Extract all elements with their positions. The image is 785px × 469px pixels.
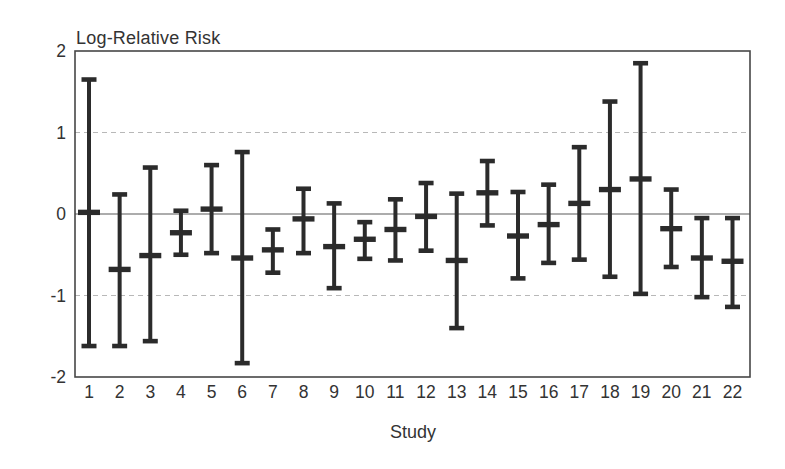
error-bar-study-6: [231, 152, 253, 363]
x-tick-label: 18: [600, 382, 619, 402]
error-bar-study-19: [630, 63, 652, 294]
error-bar-study-9: [323, 203, 345, 288]
x-tick-label: 13: [447, 382, 466, 402]
x-tick-label: 10: [355, 382, 375, 402]
error-bar-study-7: [262, 229, 284, 272]
error-bar-study-10: [354, 222, 376, 259]
x-tick-label: 20: [661, 382, 681, 402]
x-tick-label: 5: [207, 382, 217, 402]
x-tick-label: 17: [570, 382, 589, 402]
error-bar-study-22: [722, 218, 744, 307]
x-tick-label: 22: [723, 382, 742, 402]
error-bar-study-12: [415, 183, 437, 251]
y-tick-label: -1: [50, 286, 66, 306]
x-tick-label: 7: [268, 382, 278, 402]
error-bar-study-4: [170, 211, 192, 255]
x-tick-label: 8: [299, 382, 309, 402]
x-tick-label: 9: [329, 382, 339, 402]
error-bar-study-17: [568, 147, 590, 259]
error-bar-study-14: [476, 161, 498, 225]
errorbar-chart: Log-Relative Risk 210-1-2123456789101112…: [0, 0, 785, 469]
y-tick-label: 2: [56, 41, 66, 61]
x-tick-label: 12: [416, 382, 435, 402]
x-tick-label: 14: [478, 382, 498, 402]
y-tick-label: -2: [50, 367, 66, 387]
x-tick-label: 16: [539, 382, 558, 402]
error-bar-study-21: [691, 218, 713, 297]
y-tick-label: 1: [56, 123, 66, 143]
x-axis-label: Study: [390, 422, 436, 443]
error-bar-study-1: [78, 80, 100, 347]
x-tick-label: 6: [237, 382, 247, 402]
error-bar-study-5: [201, 165, 223, 253]
error-bar-study-11: [384, 199, 406, 260]
error-bar-study-20: [660, 190, 682, 267]
error-bar-study-16: [538, 185, 560, 263]
chart-title: Log-Relative Risk: [76, 28, 220, 49]
error-bar-study-3: [139, 168, 161, 342]
error-bar-study-2: [109, 194, 131, 346]
plot-area-svg: 210-1-2123456789101112131415161718192021…: [0, 0, 785, 469]
x-tick-label: 11: [386, 382, 404, 402]
x-tick-label: 4: [176, 382, 186, 402]
x-tick-label: 21: [692, 382, 711, 402]
x-tick-label: 15: [508, 382, 527, 402]
x-tick-label: 2: [115, 382, 125, 402]
x-tick-label: 3: [145, 382, 155, 402]
error-bar-study-8: [293, 189, 315, 253]
y-tick-label: 0: [56, 204, 66, 224]
error-bar-study-18: [599, 102, 621, 277]
error-bar-study-15: [507, 192, 529, 278]
x-tick-label: 19: [631, 382, 650, 402]
x-tick-label: 1: [84, 382, 94, 402]
